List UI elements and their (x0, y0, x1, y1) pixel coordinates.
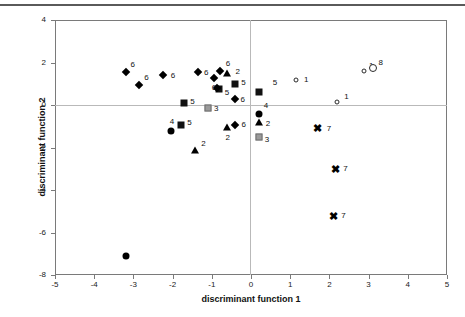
scatter-chart-figure: 420-2-4-6-8 -5-4-3-2-1012345 66666625565… (0, 0, 465, 317)
x-axis-tick (251, 275, 252, 279)
x-axis-tick (133, 275, 134, 279)
data-point-label: 1 (304, 74, 308, 83)
x-axis-tick-label: -3 (121, 280, 145, 289)
data-point-label: 4 (264, 100, 268, 109)
data-point-label: 1 (344, 91, 348, 100)
x-axis-title: discriminant function 1 (55, 294, 447, 304)
y-axis-tick (51, 20, 55, 21)
data-point-label: 5 (225, 88, 229, 97)
data-point-label: 2 (225, 133, 229, 142)
data-point-marker-open-circle-small (294, 77, 299, 82)
data-point-label: 6 (241, 94, 245, 103)
data-point-label: 2 (266, 119, 270, 128)
data-point-label: 2 (201, 139, 205, 148)
x-axis-tick-label: 4 (396, 280, 420, 289)
y-axis-tick (51, 105, 55, 106)
data-point-label: 4 (170, 116, 174, 125)
data-point-marker-filled-triangle (191, 147, 199, 154)
data-point-label: 5 (241, 77, 245, 86)
data-point-marker-filled-triangle (223, 70, 231, 77)
data-point-label: 5 (187, 118, 191, 127)
data-point-marker-bold-cross: ✖ (313, 124, 322, 133)
data-point-marker-bold-cross: ✖ (331, 164, 340, 173)
y-axis-title: discriminant function 2 (37, 20, 47, 275)
data-point-marker-bold-cross: ✖ (329, 211, 338, 220)
y-axis-tick (51, 233, 55, 234)
x-axis-tick-label: 0 (239, 280, 263, 289)
x-axis-tick-label: 2 (317, 280, 341, 289)
x-axis-tick (290, 275, 291, 279)
data-point-label: 6 (204, 68, 208, 77)
top-divider-rule (0, 4, 465, 6)
x-axis-tick-label: -2 (161, 280, 185, 289)
data-point-marker-filled-circle (255, 110, 262, 117)
data-point-marker-filled-triangle (255, 119, 263, 126)
x-axis-tick (329, 275, 330, 279)
data-point-label: 6 (131, 60, 135, 69)
x-axis-tick-label: 3 (357, 280, 381, 289)
data-point-label: 5 (273, 78, 277, 87)
x-axis-tick-label: 5 (435, 280, 459, 289)
x-axis-tick (94, 275, 95, 279)
data-point-marker-filled-square (181, 99, 188, 106)
data-point-marker-gray-square (255, 133, 262, 140)
x-zero-reference-line (250, 20, 251, 275)
data-point-label: 7 (343, 163, 347, 172)
x-axis-tick (369, 275, 370, 279)
data-point-marker-filled-circle (122, 252, 129, 259)
data-point-label: 2 (235, 67, 239, 76)
data-point-label: 3 (265, 134, 269, 143)
x-axis-tick (408, 275, 409, 279)
x-axis-tick-label: -1 (200, 280, 224, 289)
data-point-marker-filled-square (178, 122, 185, 129)
data-point-label: 3 (214, 104, 218, 113)
data-point-label: 5 (190, 96, 194, 105)
data-point-marker-open-circle-large (369, 64, 377, 72)
x-axis-tick (447, 275, 448, 279)
y-zero-reference-line (55, 105, 447, 106)
data-point-marker-filled-square (255, 89, 262, 96)
data-point-label: 7 (341, 210, 345, 219)
x-axis-tick (173, 275, 174, 279)
data-point-marker-gray-square (204, 105, 211, 112)
x-axis-tick (55, 275, 56, 279)
data-point-label: 7 (327, 124, 331, 133)
data-point-label: 6 (171, 71, 175, 80)
data-point-marker-filled-circle (167, 127, 174, 134)
data-point-label: 6 (144, 72, 148, 81)
y-axis-tick (51, 63, 55, 64)
x-axis-tick-label: -4 (82, 280, 106, 289)
x-axis-tick (212, 275, 213, 279)
y-axis-tick (51, 148, 55, 149)
x-axis-tick-label: -5 (43, 280, 67, 289)
data-point-marker-open-circle-small (335, 99, 340, 104)
y-axis-tick (51, 190, 55, 191)
data-point-label: 8 (379, 57, 383, 66)
data-point-marker-filled-square (232, 80, 239, 87)
data-point-marker-open-circle-small (361, 69, 366, 74)
data-point-label: 6 (226, 59, 230, 68)
data-point-label: 6 (242, 120, 246, 129)
plot-area-frame (55, 20, 447, 275)
x-axis-tick-label: 1 (278, 280, 302, 289)
